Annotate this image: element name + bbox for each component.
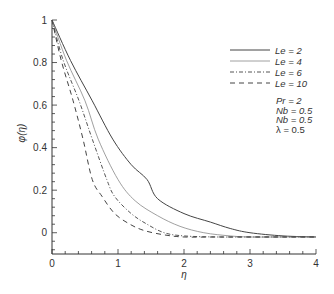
x-tick-label: 1 [115,258,121,269]
x-axis-label: η [181,269,187,280]
legend-label: Le = 6 [275,67,302,78]
y-tick-label: 0.4 [33,142,47,153]
legend-label: Le = 2 [275,45,302,56]
legend-item: Le = 10 [230,78,308,89]
x-tick-label: 4 [313,258,319,269]
legend: Le = 2Le = 4Le = 6Le = 10 [230,45,308,89]
line-chart: 0123400.20.40.60.81 Le = 2Le = 4Le = 6Le… [0,0,334,294]
x-tick-label: 0 [49,258,55,269]
legend-item: Le = 4 [230,56,302,67]
parameter-label: λ = 0.5 [276,124,305,135]
legend-label: Le = 10 [275,78,308,89]
legend-item: Le = 2 [230,45,302,56]
x-tick-label: 3 [247,258,253,269]
legend-item: Le = 6 [230,67,302,78]
parameter-annotations: Pr = 2Nb = 0.5Nb = 0.5λ = 0.5 [276,95,313,135]
legend-label: Le = 4 [275,56,302,67]
y-tick-label: 0.8 [33,57,47,68]
chart-container: 0123400.20.40.60.81 Le = 2Le = 4Le = 6Le… [0,0,334,294]
y-tick-label: 0 [41,227,47,238]
y-tick-label: 0.2 [33,185,47,196]
y-tick-label: 0.6 [33,100,47,111]
y-axis-label: φ(η) [16,124,27,143]
x-tick-label: 2 [181,258,187,269]
y-tick-label: 1 [41,15,47,26]
